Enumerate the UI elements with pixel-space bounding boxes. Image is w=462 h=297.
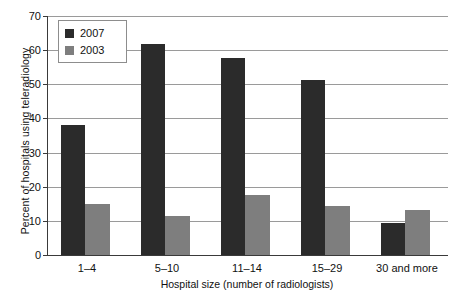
- x-tick-label: 11–14: [232, 262, 262, 274]
- y-tick-mark: [43, 221, 48, 222]
- y-tick-label: 20: [29, 181, 41, 193]
- bar-2003-15–29: [325, 206, 350, 255]
- y-tick-mark: [43, 187, 48, 188]
- y-tick-mark: [43, 153, 48, 154]
- x-tick-label: 1–4: [78, 262, 96, 274]
- gridline: [48, 84, 448, 85]
- y-tick-label: 60: [29, 44, 41, 56]
- y-tick-label: 40: [29, 112, 41, 124]
- y-tick-label: 70: [29, 10, 41, 22]
- bar-2007-15–29: [301, 80, 326, 255]
- legend-item-2007: 2007: [65, 25, 126, 42]
- legend-item-2003: 2003: [65, 42, 126, 59]
- y-tick-mark: [43, 16, 48, 17]
- y-tick-mark: [43, 118, 48, 119]
- gridline: [48, 16, 448, 17]
- chart-legend: 2007 2003: [58, 20, 127, 63]
- gridline: [48, 118, 448, 119]
- y-tick-label: 0: [35, 249, 41, 261]
- bar-2007-1–4: [61, 125, 86, 255]
- y-tick-mark: [43, 50, 48, 51]
- y-tick-label: 10: [29, 215, 41, 227]
- y-tick-mark: [43, 84, 48, 85]
- bar-2003-5–10: [165, 216, 190, 255]
- legend-label-2003: 2003: [80, 45, 104, 56]
- gridline: [48, 153, 448, 154]
- x-tick-label: 15–29: [312, 262, 343, 274]
- x-tick-label: 30 and more: [376, 262, 438, 274]
- legend-swatch-icon-2007: [65, 29, 74, 38]
- x-axis-title: Hospital size (number of radiologists): [47, 278, 447, 290]
- legend-swatch-icon-2003: [65, 46, 74, 55]
- bar-2003-30 and more: [405, 210, 430, 255]
- legend-label-2007: 2007: [80, 28, 104, 39]
- bar-2007-30 and more: [381, 223, 406, 255]
- bar-chart: Percent of hospitals using teleradiology…: [0, 0, 462, 297]
- bar-2007-5–10: [141, 44, 166, 255]
- y-tick-mark: [43, 255, 48, 256]
- x-tick-label: 5–10: [155, 262, 179, 274]
- gridline: [48, 187, 448, 188]
- y-tick-label: 50: [29, 78, 41, 90]
- bar-2007-11–14: [221, 58, 246, 255]
- bar-2003-1–4: [85, 204, 110, 255]
- bar-2003-11–14: [245, 195, 270, 255]
- y-tick-label: 30: [29, 147, 41, 159]
